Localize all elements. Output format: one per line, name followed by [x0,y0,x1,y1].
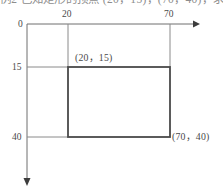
coordinate-rectangle-figure: 例2 已知矩形的顶点 (20，15)，(70，40)，求… 0 20 70 15… [0,0,223,193]
x-axis-arrowhead [193,21,200,28]
caption-fragment: 例2 已知矩形的顶点 (20，15)，(70，40)，求… [0,0,223,7]
y-tick-label-40: 40 [12,132,22,142]
y-axis-arrowhead [24,178,31,186]
x-tick-label-70: 70 [164,9,174,19]
axis-origin-label: 0 [18,19,23,29]
point-label-top-left: (20，15) [75,52,113,63]
y-tick-label-15: 15 [12,62,22,72]
x-tick-label-20: 20 [62,9,72,19]
point-label-bottom-right: (70，40) [172,131,210,142]
data-rectangle [68,67,170,137]
figure-canvas [0,0,223,193]
